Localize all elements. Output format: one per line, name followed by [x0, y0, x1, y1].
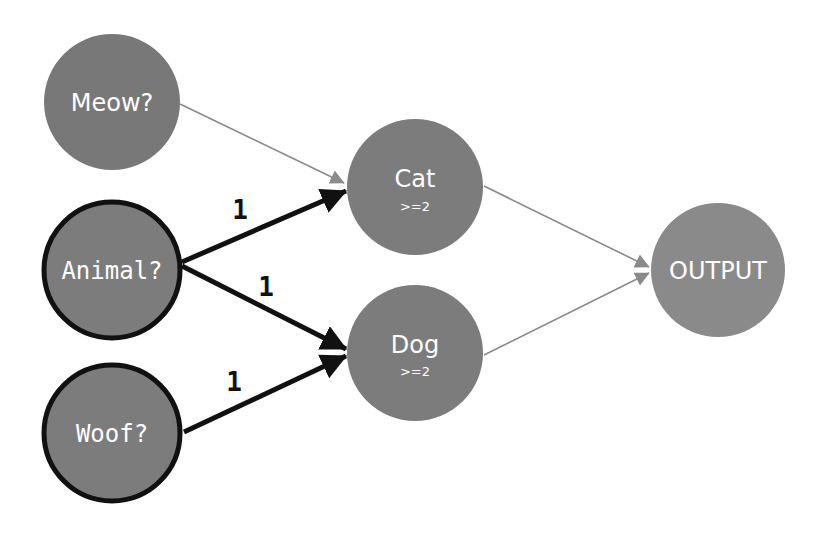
network-diagram: 1 1 1 Meow? Animal? Woof? Cat >=2 Dog >=…	[0, 0, 824, 533]
edge-dog-output	[484, 273, 649, 355]
edge-cat-output	[484, 186, 649, 267]
edge-meow-cat	[180, 104, 344, 183]
edge-woof-dog	[184, 356, 346, 432]
weight-label-animal-dog: 1	[258, 272, 274, 302]
weight-label-animal-cat: 1	[232, 195, 248, 225]
node-output-label: OUTPUT	[669, 257, 767, 285]
node-meow: Meow?	[44, 34, 180, 170]
node-animal-label: Animal?	[61, 257, 162, 285]
node-output: OUTPUT	[651, 203, 785, 337]
node-cat: Cat >=2	[347, 119, 483, 255]
edge-animal-cat	[182, 191, 346, 262]
node-cat-label: Cat	[395, 165, 436, 193]
node-woof: Woof?	[44, 365, 180, 501]
node-woof-label: Woof?	[76, 420, 148, 448]
node-meow-label: Meow?	[71, 89, 154, 117]
node-cat-threshold: >=2	[400, 199, 430, 214]
node-dog: Dog >=2	[347, 285, 483, 421]
node-dog-threshold: >=2	[400, 364, 430, 379]
node-animal: Animal?	[44, 202, 180, 338]
weight-label-woof-dog: 1	[226, 367, 242, 397]
node-dog-label: Dog	[391, 331, 439, 359]
